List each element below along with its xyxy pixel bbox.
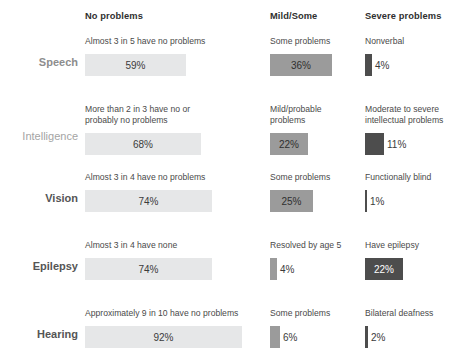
bar: 74% <box>85 190 212 212</box>
bar-group: 68% <box>85 133 201 155</box>
cell-epilepsy-severe: Have epilepsy 22% <box>365 234 465 302</box>
cell-vision-severe: Functionally blind 1% <box>365 166 465 234</box>
bar-group: 4% <box>270 258 294 280</box>
bar-group: 4% <box>365 54 389 76</box>
cell-caption: Almost 3 in 4 have no problems <box>85 172 205 183</box>
row-label-vision: Vision <box>0 192 78 204</box>
bar-group: 2% <box>365 326 385 348</box>
bar <box>365 190 367 212</box>
bar-value-label: 2% <box>371 332 385 343</box>
cell-vision-no-problems: Almost 3 in 4 have no problems 74% <box>85 166 260 234</box>
column-header-mild-some: Mild/Some <box>270 11 317 21</box>
bar <box>365 133 384 155</box>
cell-caption: Some problems <box>270 172 330 183</box>
bar: 59% <box>85 54 186 76</box>
cell-caption: Have epilepsy <box>365 240 419 251</box>
bar: 25% <box>270 190 313 212</box>
bar-value-label: 22% <box>279 139 299 150</box>
cell-caption: Resolved by age 5 <box>270 240 341 251</box>
column-header-row: No problems Mild/Some Severe problems <box>0 0 467 30</box>
cell-speech-mild-some: Some problems 36% <box>270 30 360 98</box>
bar-group: 22% <box>270 133 308 155</box>
bar-group: 36% <box>270 54 332 76</box>
bar-value-label: 4% <box>375 60 389 71</box>
bar: 74% <box>85 258 212 280</box>
bar-value-label: 74% <box>138 196 158 207</box>
bar-group: 1% <box>365 190 384 212</box>
bar: 92% <box>85 326 242 348</box>
bar-value-label: 74% <box>138 264 158 275</box>
cell-intelligence-severe: Moderate to severe intellectual problems… <box>365 98 465 166</box>
column-header-no-problems: No problems <box>85 11 143 21</box>
row-label-epilepsy: Epilepsy <box>0 260 78 272</box>
cell-caption: Nonverbal <box>365 36 404 47</box>
row-label-intelligence: Intelligence <box>0 130 78 142</box>
bar: 22% <box>365 258 403 280</box>
cell-caption: Some problems <box>270 36 330 47</box>
cell-caption: Moderate to severe intellectual problems <box>365 104 443 126</box>
bar-value-label: 11% <box>387 139 406 150</box>
cell-caption: Almost 3 in 5 have no problems <box>85 36 205 47</box>
bar <box>270 258 277 280</box>
bar-value-label: 6% <box>283 332 297 343</box>
bar-group: 6% <box>270 326 297 348</box>
bar-group: 74% <box>85 190 212 212</box>
chart-row-intelligence: Intelligence More than 2 in 3 have no or… <box>0 98 467 166</box>
cell-epilepsy-no-problems: Almost 3 in 4 have none 74% <box>85 234 260 302</box>
bar-value-label: 22% <box>374 264 394 275</box>
cell-intelligence-no-problems: More than 2 in 3 have no or probably no … <box>85 98 260 166</box>
bar <box>270 326 280 348</box>
row-label-hearing: Hearing <box>0 328 78 340</box>
bar: 36% <box>270 54 332 76</box>
cell-caption: More than 2 in 3 have no or probably no … <box>85 104 190 126</box>
bar-group: 22% <box>365 258 403 280</box>
cell-epilepsy-mild-some: Resolved by age 5 4% <box>270 234 360 302</box>
cell-vision-mild-some: Some problems 25% <box>270 166 360 234</box>
row-label-speech: Speech <box>0 56 78 68</box>
cell-intelligence-mild-some: Mild/probable problems 22% <box>270 98 360 166</box>
bar <box>365 54 372 76</box>
cell-caption: Mild/probable problems <box>270 104 322 126</box>
bar-group: 11% <box>365 133 406 155</box>
bar <box>365 326 368 348</box>
cell-caption: Approximately 9 in 10 have no problems <box>85 308 238 319</box>
column-header-severe-problems: Severe problems <box>365 11 441 21</box>
chart-row-hearing: Hearing Approximately 9 in 10 have no pr… <box>0 302 467 346</box>
cell-speech-severe: Nonverbal 4% <box>365 30 465 98</box>
chart-row-speech: Speech Almost 3 in 5 have no problems 59… <box>0 30 467 98</box>
bar-value-label: 36% <box>291 60 311 71</box>
cell-hearing-severe: Bilateral deafness 2% <box>365 302 465 352</box>
bar-value-label: 25% <box>281 196 301 207</box>
bar-value-label: 59% <box>125 60 145 71</box>
bar-group: 59% <box>85 54 186 76</box>
bar: 68% <box>85 133 201 155</box>
chart-row-vision: Vision Almost 3 in 4 have no problems 74… <box>0 166 467 234</box>
bar-group: 25% <box>270 190 313 212</box>
bar-value-label: 68% <box>133 139 153 150</box>
cell-caption: Bilateral deafness <box>365 308 433 319</box>
bar-value-label: 4% <box>280 264 294 275</box>
cell-hearing-mild-some: Some problems 6% <box>270 302 360 352</box>
cell-hearing-no-problems: Approximately 9 in 10 have no problems 9… <box>85 302 260 352</box>
bar-value-label: 1% <box>370 196 384 207</box>
cell-caption: Functionally blind <box>365 172 431 183</box>
cell-caption: Some problems <box>270 308 330 319</box>
bar-group: 92% <box>85 326 242 348</box>
bar-value-label: 92% <box>153 332 173 343</box>
bar-group: 74% <box>85 258 212 280</box>
bar: 22% <box>270 133 308 155</box>
cell-speech-no-problems: Almost 3 in 5 have no problems 59% <box>85 30 260 98</box>
chart-row-epilepsy: Epilepsy Almost 3 in 4 have none 74% Res… <box>0 234 467 302</box>
cell-caption: Almost 3 in 4 have none <box>85 240 177 251</box>
